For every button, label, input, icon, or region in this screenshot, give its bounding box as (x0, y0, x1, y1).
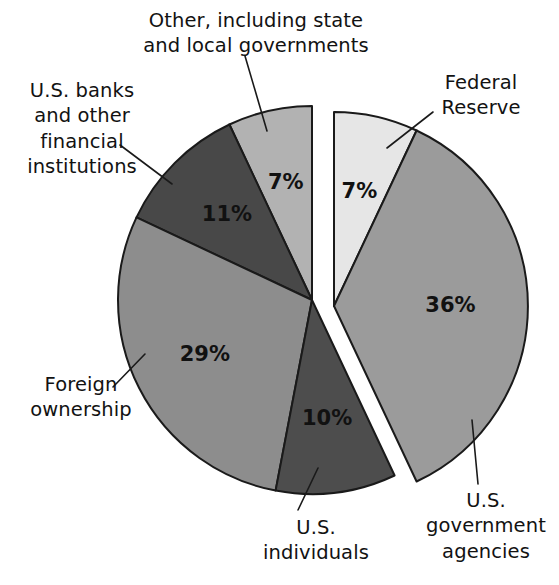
pie-label-other: Other, including state and local governm… (112, 8, 400, 59)
pie-label-federal-reserve: Federal Reserve (416, 70, 546, 121)
pie-value-other: 7% (268, 170, 304, 194)
pie-label-us-individuals: U.S. individuals (242, 515, 390, 566)
pie-value-federal-reserve: 7% (342, 179, 378, 203)
pie-value-foreign-ownership: 29% (180, 342, 230, 366)
pie-label-us-banks: U.S. banks and other financial instituti… (2, 78, 162, 179)
pie-label-foreign-ownership: Foreign ownership (6, 372, 156, 423)
pie-label-us-government-agencies: U.S. government agencies (418, 488, 554, 564)
pie-value-us-government-agencies: 36% (425, 293, 475, 317)
pie-value-us-individuals: 10% (302, 406, 352, 430)
pie-chart-figure: 7% 11% 29% 10% 7% 36% Other, including s… (0, 0, 559, 585)
pie-value-us-banks: 11% (202, 202, 252, 226)
